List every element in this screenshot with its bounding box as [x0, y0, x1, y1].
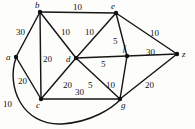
- node-label-a: a: [6, 53, 11, 62]
- edge-weight-a-g: 10: [3, 100, 12, 109]
- node-e: [114, 11, 118, 15]
- node-label-g: g: [121, 101, 126, 110]
- node-d: [74, 56, 78, 60]
- node-z: [175, 52, 179, 56]
- node-label-z: z: [182, 50, 186, 59]
- node-a: [14, 55, 18, 59]
- edge-weight-b-d: 10: [61, 28, 70, 37]
- edge-c-d: [41, 58, 76, 99]
- edge-weight-d-f: 5: [101, 60, 106, 69]
- edge-weight-c-d: 20: [63, 81, 72, 90]
- edge-weight-b-c: 20: [43, 55, 52, 64]
- edge-weight-a-c: 20: [18, 77, 27, 86]
- edge-weight-g-z: 20: [145, 81, 154, 90]
- edge-weight-f-g: 10: [106, 81, 115, 90]
- edge-g-z: [120, 54, 177, 99]
- edge-weight-f-z: 30: [146, 48, 155, 57]
- edge-b-c: [40, 12, 41, 99]
- edge-f-g: [120, 56, 127, 99]
- edge-b-d: [40, 12, 76, 58]
- edge-b-e: [40, 12, 116, 13]
- edge-weight-d-e: 10: [85, 28, 94, 37]
- edge-d-f: [76, 56, 127, 58]
- node-b: [38, 10, 42, 14]
- node-label-b: b: [35, 1, 40, 10]
- edge-weight-b-e: 10: [73, 3, 82, 12]
- edge-weight-c-g: 30: [75, 88, 84, 97]
- node-label-e: e: [111, 2, 115, 11]
- node-label-d: d: [66, 55, 71, 64]
- edge-weight-e-z: 10: [150, 29, 159, 38]
- edge-d-e: [76, 13, 116, 58]
- graph-figure: abcdefgz 30201010201020301055510103020: [0, 0, 195, 129]
- edge-weight-e-f: 5: [113, 37, 118, 46]
- edge-weight-a-b: 30: [16, 28, 25, 37]
- node-label-f: f: [123, 44, 126, 53]
- graph-canvas: [0, 0, 195, 129]
- edge-weight-d-g: 5: [88, 81, 93, 90]
- node-f: [125, 54, 129, 58]
- node-label-c: c: [36, 101, 40, 110]
